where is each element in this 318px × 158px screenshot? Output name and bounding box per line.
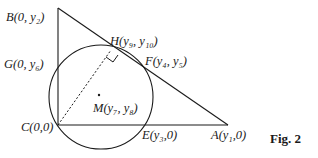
center-point-m — [98, 94, 100, 96]
label-a: A(y₁,0) — [210, 128, 246, 142]
figure-caption: Fig. 2 — [270, 131, 301, 146]
label-f: F(y₄, y₅) — [144, 54, 187, 68]
right-angle-marker — [106, 55, 118, 62]
circle-m — [49, 45, 153, 149]
label-b: B(0, y₂) — [6, 10, 44, 24]
label-h: H(y₉, y₁₀) — [109, 34, 158, 48]
label-c: C(0,0) — [21, 120, 53, 134]
label-m: M(y₇, y₈) — [92, 101, 138, 115]
label-e: E(y₃,0) — [141, 128, 177, 142]
geometry-figure: B(0, y₂) G(0, y₆) H(y₉, y₁₀) F(y₄, y₅) M… — [0, 0, 318, 158]
label-g: G(0, y₆) — [4, 57, 44, 71]
